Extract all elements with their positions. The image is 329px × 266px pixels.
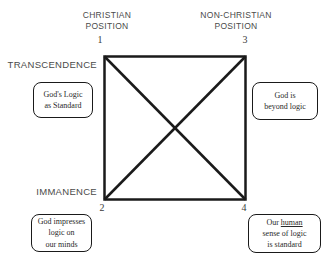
note-line: beyond logic bbox=[264, 101, 306, 112]
note-box-human-sense: Our human sense of logic is standard bbox=[248, 214, 321, 253]
note-box-god-impresses: God impresses logic on our minds bbox=[31, 214, 92, 252]
note-line: sense of logic bbox=[263, 228, 307, 239]
note-line: as Standard bbox=[44, 100, 81, 111]
immanence-label: IMMANENCE bbox=[0, 186, 97, 197]
transcendence-label: TRANSCENDENCE bbox=[0, 59, 97, 70]
note-line: God impresses bbox=[38, 216, 85, 227]
note-line: is standard bbox=[267, 239, 301, 250]
note-line: our minds bbox=[45, 239, 77, 250]
diagram-canvas: CHRISTIAN POSITION NON-CHRISTIAN POSITIO… bbox=[0, 0, 329, 266]
note-box-god-beyond-logic: God is beyond logic bbox=[252, 82, 318, 120]
note-line-prefix: Our bbox=[266, 218, 280, 227]
non-christian-position-line2: POSITION bbox=[186, 21, 286, 32]
corner-number-4: 4 bbox=[234, 202, 254, 213]
non-christian-position-line1: NON-CHRISTIAN bbox=[186, 10, 286, 21]
corner-number-1: 1 bbox=[90, 34, 110, 45]
note-line: God is bbox=[274, 90, 295, 101]
christian-position-line1: CHRISTIAN bbox=[57, 10, 157, 21]
christian-position-header: CHRISTIAN POSITION bbox=[57, 10, 157, 32]
christian-position-line2: POSITION bbox=[57, 21, 157, 32]
corner-number-2: 2 bbox=[92, 202, 112, 213]
corner-number-3: 3 bbox=[235, 34, 255, 45]
note-line: logic on bbox=[49, 227, 75, 238]
note-line-underlined-word: human bbox=[281, 218, 303, 227]
note-line: Our human bbox=[266, 217, 302, 228]
note-box-gods-logic: God's Logic as Standard bbox=[33, 82, 93, 118]
non-christian-position-header: NON-CHRISTIAN POSITION bbox=[186, 10, 286, 32]
note-line: God's Logic bbox=[44, 89, 83, 100]
